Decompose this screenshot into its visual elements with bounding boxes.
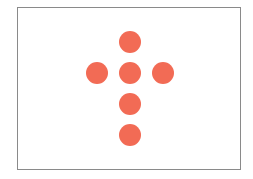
dot-middle-right — [152, 62, 174, 84]
dot-center — [119, 62, 141, 84]
dot-bottom — [119, 124, 141, 146]
dot-top — [119, 31, 141, 53]
dot-middle-left — [86, 62, 108, 84]
dot-lower — [119, 93, 141, 115]
